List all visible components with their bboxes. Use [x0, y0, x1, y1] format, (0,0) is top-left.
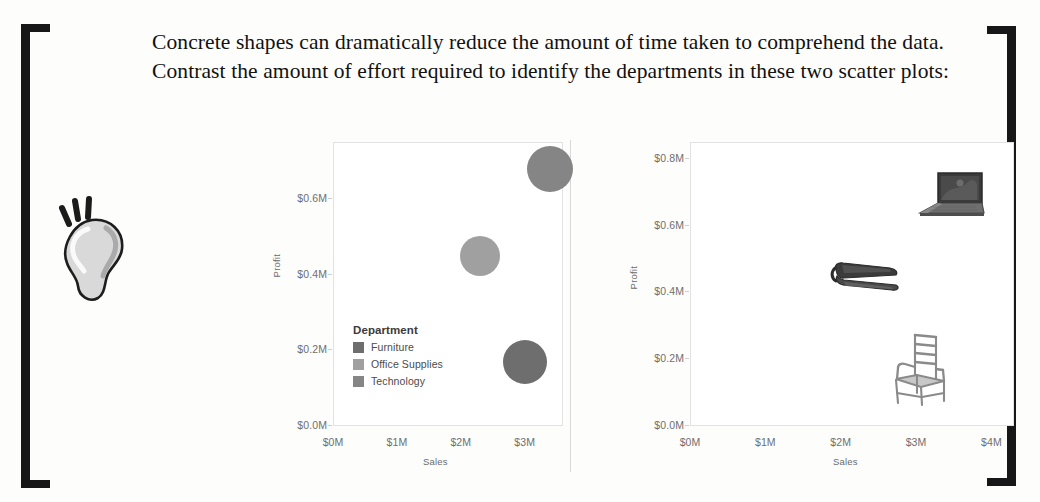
data-point-laptop-icon[interactable]: [914, 169, 986, 225]
y-tick-label: $0.4M: [632, 285, 684, 297]
legend-label-furniture: Furniture: [371, 341, 414, 353]
intro-paragraph: Concrete shapes can dramatically reduce …: [152, 28, 994, 85]
data-point-bubble[interactable]: [503, 340, 547, 384]
legend-department: Department Furniture Office Supplies Tec…: [353, 324, 443, 392]
scatter-plot-abstract: Profit Sales $0.0M$0.2M$0.4M$0.6M $0M$1M…: [165, 136, 575, 476]
y-tick-mark: [685, 425, 689, 426]
x-tick-label: $3M: [893, 436, 939, 448]
legend-label-office-supplies: Office Supplies: [371, 358, 443, 370]
page-root: Concrete shapes can dramatically reduce …: [0, 0, 1040, 502]
legend-swatch-office-supplies: [353, 359, 364, 370]
left-bracket-bottom-arm: [21, 480, 50, 488]
data-point-bubble[interactable]: [460, 236, 500, 276]
y-tick-mark: [685, 225, 689, 226]
data-point-chair-icon[interactable]: [891, 331, 949, 411]
legend-swatch-technology: [353, 376, 364, 387]
legend-label-technology: Technology: [371, 375, 425, 387]
charts-row: Profit Sales $0.0M$0.2M$0.4M$0.6M $0M$1M…: [60, 136, 1020, 476]
x-tick-label: $0M: [310, 436, 356, 448]
y-tick-mark: [685, 158, 689, 159]
y-tick-mark: [685, 291, 689, 292]
y-tick-mark: [328, 425, 332, 426]
right-bracket-bottom-arm: [987, 478, 1016, 486]
x-tick-label: $2M: [818, 436, 864, 448]
y-tick-label: $0.4M: [275, 268, 327, 280]
x-tick-label: $1M: [374, 436, 420, 448]
x-axis-title-left: Sales: [423, 456, 448, 467]
data-point-stapler-icon[interactable]: [830, 254, 904, 302]
left-bracket-top-arm: [21, 24, 50, 32]
x-tick-label: $0M: [667, 436, 713, 448]
x-tick-label: $1M: [742, 436, 788, 448]
legend-swatch-furniture: [353, 342, 364, 353]
y-tick-label: $0.0M: [632, 419, 684, 431]
legend-item[interactable]: Furniture: [353, 341, 443, 353]
y-tick-mark: [328, 198, 332, 199]
y-tick-mark: [328, 349, 332, 350]
y-tick-label: $0.6M: [632, 219, 684, 231]
y-tick-label: $0.6M: [275, 192, 327, 204]
y-tick-label: $0.0M: [275, 419, 327, 431]
left-bracket-stem: [21, 24, 30, 488]
x-tick-label: $4M: [968, 436, 1014, 448]
legend-item[interactable]: Office Supplies: [353, 358, 443, 370]
y-tick-label: $0.8M: [632, 152, 684, 164]
data-point-bubble[interactable]: [527, 146, 573, 192]
left-bracket-ornament: [8, 24, 46, 488]
legend-title: Department: [353, 324, 443, 336]
y-tick-mark: [685, 358, 689, 359]
legend-item[interactable]: Technology: [353, 375, 443, 387]
x-axis-title-right: Sales: [833, 456, 858, 467]
x-tick-label: $3M: [502, 436, 548, 448]
x-tick-label: $2M: [438, 436, 484, 448]
scatter-plot-pictograph: Profit Sales $0.0M$0.2M$0.4M$0.6M$0.8M $…: [575, 136, 1025, 476]
y-tick-label: $0.2M: [632, 352, 684, 364]
y-tick-mark: [328, 274, 332, 275]
y-tick-label: $0.2M: [275, 343, 327, 355]
